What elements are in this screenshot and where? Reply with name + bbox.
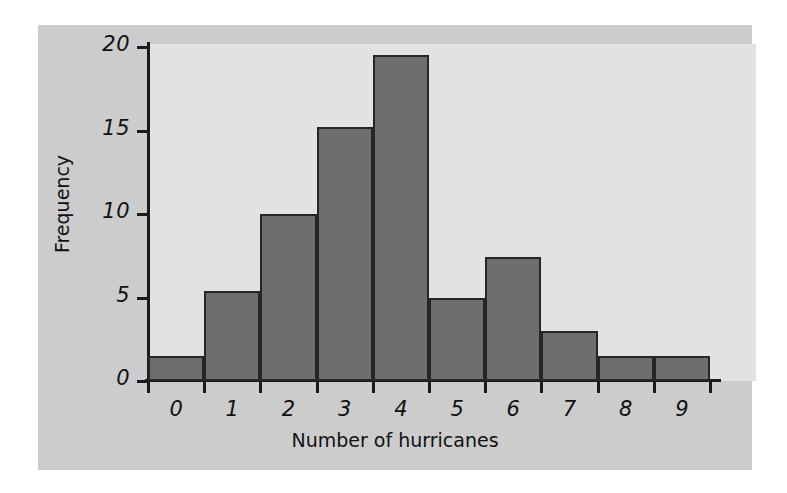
x-tick-1 xyxy=(203,382,206,393)
x-tick-label-9: 9 xyxy=(667,397,697,421)
bar-9 xyxy=(654,356,710,381)
histogram-figure: 05101520 0123456789 Number of hurricanes… xyxy=(0,0,787,493)
y-tick-label-5: 5 xyxy=(84,283,130,307)
x-tick-7 xyxy=(540,382,543,393)
y-axis-title: Frequency xyxy=(51,124,73,284)
bar-2 xyxy=(260,214,316,381)
x-tick-label-4: 4 xyxy=(386,397,416,421)
x-tick-4 xyxy=(372,382,375,393)
y-tick-label-15: 15 xyxy=(84,116,130,140)
bar-5 xyxy=(429,298,485,382)
y-tick-10 xyxy=(137,213,148,216)
bar-7 xyxy=(541,331,597,381)
x-tick-label-8: 8 xyxy=(611,397,641,421)
x-tick-0 xyxy=(147,382,150,393)
x-axis-title: Number of hurricanes xyxy=(38,429,752,451)
bar-4 xyxy=(373,55,429,381)
x-tick-label-6: 6 xyxy=(498,397,528,421)
x-tick-3 xyxy=(316,382,319,393)
chart-panel: 05101520 0123456789 Number of hurricanes… xyxy=(38,25,752,470)
bar-1 xyxy=(204,291,260,381)
y-tick-label-0: 0 xyxy=(84,366,130,390)
y-tick-5 xyxy=(137,297,148,300)
x-tick-label-1: 1 xyxy=(217,397,247,421)
bar-0 xyxy=(148,356,204,381)
bar-3 xyxy=(317,127,373,381)
x-tick-6 xyxy=(484,382,487,393)
x-tick-2 xyxy=(259,382,262,393)
x-tick-label-5: 5 xyxy=(442,397,472,421)
y-tick-15 xyxy=(137,130,148,133)
bar-6 xyxy=(485,257,541,381)
x-tick-label-2: 2 xyxy=(274,397,304,421)
y-tick-label-20: 20 xyxy=(84,32,130,56)
y-tick-label-10: 10 xyxy=(84,199,130,223)
x-tick-10 xyxy=(709,382,712,393)
x-tick-8 xyxy=(597,382,600,393)
x-tick-9 xyxy=(653,382,656,393)
y-tick-20 xyxy=(137,46,148,49)
x-tick-label-0: 0 xyxy=(161,397,191,421)
x-tick-label-3: 3 xyxy=(330,397,360,421)
x-tick-5 xyxy=(428,382,431,393)
bar-8 xyxy=(598,356,654,381)
x-tick-label-7: 7 xyxy=(555,397,585,421)
